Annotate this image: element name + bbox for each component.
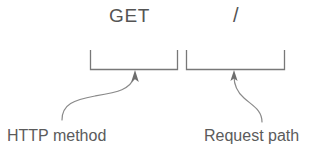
http-method-token: GET <box>109 6 150 25</box>
request-path-token: / <box>233 6 239 25</box>
annotation-label-http-method: HTTP method <box>7 127 106 145</box>
path-brace <box>187 50 285 70</box>
method-brace <box>91 50 178 70</box>
path-arrow <box>230 70 262 122</box>
method-arrowhead <box>131 70 139 82</box>
http-request-line-diagram: GET / HTTP method Request path <box>0 0 333 156</box>
annotation-label-request-path: Request path <box>204 127 299 145</box>
method-arrow <box>62 70 139 120</box>
